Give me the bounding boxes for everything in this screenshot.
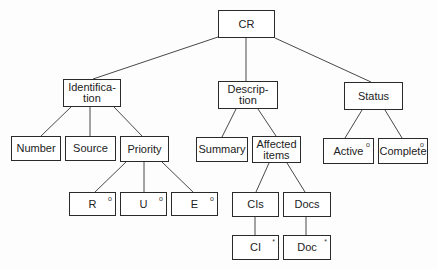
selection-mark-icon: o — [210, 195, 214, 202]
edge-priority-e — [162, 162, 193, 192]
node-label: CI — [250, 242, 261, 253]
node-label: Doc — [297, 242, 317, 253]
node-priority: Priority — [120, 136, 169, 162]
node-r: Ro — [69, 192, 116, 216]
selection-mark-icon: o — [420, 141, 424, 148]
node-label: U — [140, 199, 148, 210]
edge-description-summary — [222, 109, 236, 137]
selection-mark-icon: o — [159, 195, 163, 202]
node-complete: Completeo — [378, 138, 428, 164]
node-e: Eo — [171, 192, 218, 216]
node-status: Status — [344, 82, 403, 110]
node-doc: Doc* — [283, 235, 331, 260]
node-label: Priority — [127, 144, 161, 155]
edge-description-affected-items — [258, 109, 276, 136]
tree-edges — [0, 0, 437, 269]
edge-cr-status — [275, 38, 371, 82]
edge-status-active — [345, 110, 362, 138]
node-label: Source — [73, 143, 108, 154]
selection-mark-icon: o — [108, 195, 112, 202]
node-docs: Docs — [283, 192, 331, 217]
node-u: Uo — [120, 192, 167, 216]
edge-priority-r — [95, 162, 126, 192]
node-label: Docs — [294, 199, 319, 210]
node-cis: CIs — [232, 192, 279, 217]
node-label: Status — [358, 91, 389, 102]
node-label: E — [191, 199, 198, 210]
node-label: R — [89, 199, 97, 210]
node-ci: CI* — [232, 235, 279, 260]
node-source: Source — [65, 136, 116, 161]
edge-affected-items-docs — [287, 163, 305, 192]
node-summary: Summary — [196, 137, 248, 162]
iteration-mark-icon: * — [272, 238, 275, 245]
edge-affected-items-cis — [256, 163, 269, 192]
node-cr: CR — [218, 10, 275, 38]
node-description: Descrip- tion — [218, 81, 278, 109]
node-label: Descrip- tion — [228, 84, 269, 106]
node-label: CR — [239, 19, 255, 30]
edge-identification-number — [41, 107, 71, 136]
edge-status-complete — [385, 110, 402, 138]
node-label: Summary — [198, 144, 245, 155]
node-label: CIs — [247, 199, 264, 210]
node-label: Active — [334, 146, 364, 157]
iteration-mark-icon: * — [324, 238, 327, 245]
node-number: Number — [11, 136, 61, 161]
cr-structure-diagram: CRIdentifica- tionDescrip- tionStatusNum… — [0, 0, 437, 269]
node-affected-items: Affected items — [252, 136, 301, 163]
selection-mark-icon: o — [366, 141, 370, 148]
node-label: Affected items — [256, 139, 296, 161]
edge-cr-identification — [93, 37, 218, 79]
edge-identification-priority — [114, 107, 142, 136]
node-identification: Identifica- tion — [63, 79, 121, 107]
node-active: Activeo — [323, 138, 374, 164]
node-label: Number — [16, 143, 55, 154]
node-label: Identifica- tion — [68, 82, 116, 104]
